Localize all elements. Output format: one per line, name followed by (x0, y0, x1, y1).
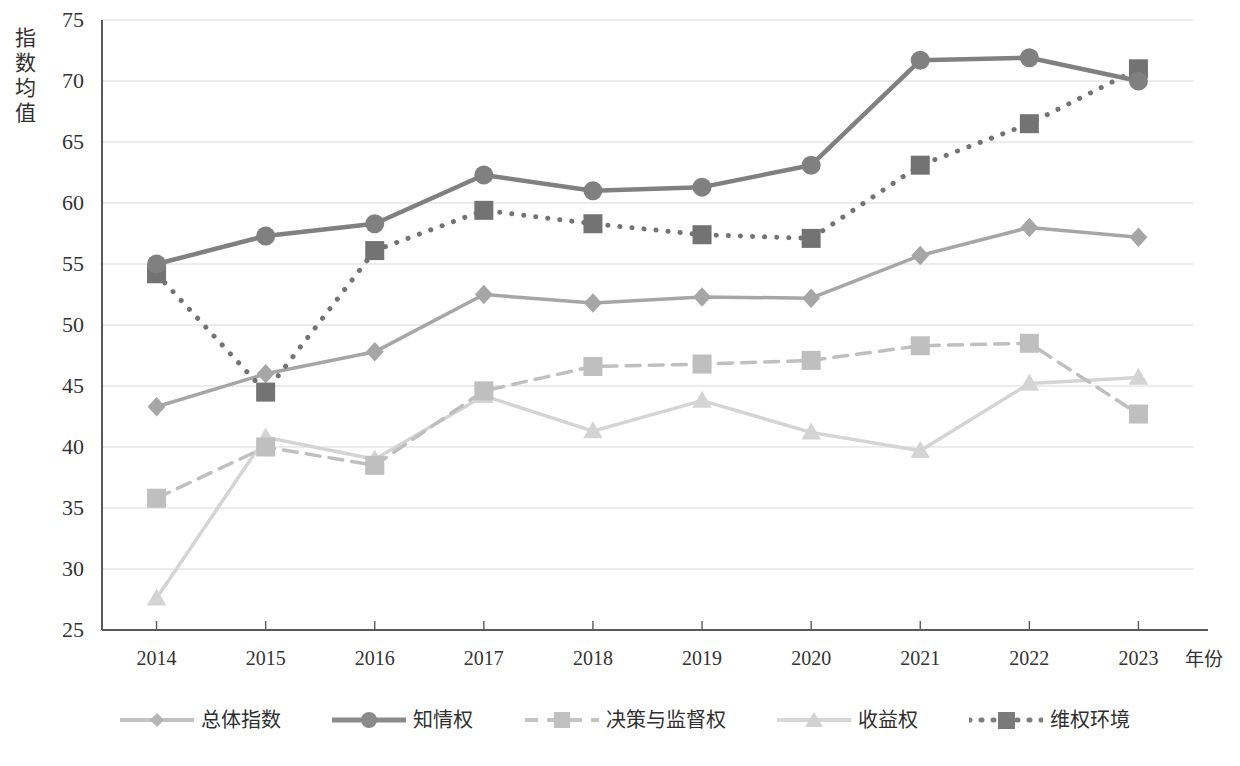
legend-label-right-to-know: 知情权 (413, 709, 473, 731)
y-axis-tick-label: 25 (30, 619, 84, 641)
x-axis-tick-label: 2016 (330, 648, 420, 668)
gridlines (102, 20, 1193, 569)
series-1 (148, 218, 1148, 417)
y-axis-tick-label: 45 (30, 375, 84, 397)
y-axis-tick-label: 40 (30, 436, 84, 458)
series-3 (147, 334, 1148, 508)
legend-label-rights-environment: 维权环境 (1050, 709, 1130, 731)
series-4 (147, 368, 1148, 606)
legend-key-circle-icon (332, 709, 406, 731)
x-axis-tick-label: 2020 (766, 648, 856, 668)
legend-label-overall: 总体指数 (201, 709, 281, 731)
legend-key-diamond-icon (120, 709, 194, 731)
x-axis-tick-label: 2022 (984, 648, 1074, 668)
legend-item-rights-environment[interactable]: 维权环境 (969, 709, 1130, 731)
legend-item-decision-supervision[interactable]: 决策与监督权 (525, 709, 726, 731)
legend-key-square-dotted-icon (969, 709, 1043, 731)
legend-item-right-to-know[interactable]: 知情权 (332, 709, 473, 731)
x-axis-tick-label: 2021 (875, 648, 965, 668)
y-axis-tick-label: 70 (30, 70, 84, 92)
y-axis-tick-label: 75 (30, 9, 84, 31)
x-axis-tick-label: 2019 (657, 648, 747, 668)
x-axis-tick-label: 2017 (439, 648, 529, 668)
legend-key-square-dashed-icon (525, 709, 599, 731)
legend-key-triangle-icon (777, 709, 851, 731)
series-2 (147, 48, 1148, 273)
y-axis-tick-label: 30 (30, 558, 84, 580)
y-axis-tick-label: 55 (30, 253, 84, 275)
x-axis-title: 年份 (1185, 650, 1223, 670)
legend-item-benefit-right[interactable]: 收益权 (777, 709, 918, 731)
legend-label-decision-supervision: 决策与监督权 (606, 709, 726, 731)
y-axis-tick-label: 60 (30, 192, 84, 214)
x-axis-tick-label: 2015 (221, 648, 311, 668)
legend-label-benefit-right: 收益权 (858, 709, 918, 731)
x-axis-tick-label: 2018 (548, 648, 638, 668)
chart-legend: 总体指数 知情权 决策与监督权 (120, 700, 1130, 740)
x-axis-tick-label: 2023 (1093, 648, 1183, 668)
x-axis-tick-label: 2014 (112, 648, 202, 668)
y-axis-tick-label: 35 (30, 497, 84, 519)
y-axis-tick-label: 50 (30, 314, 84, 336)
chart-container: 指数均值 总体指数 知情权 (0, 0, 1240, 766)
legend-item-overall[interactable]: 总体指数 (120, 709, 281, 731)
y-axis-tick-label: 65 (30, 131, 84, 153)
